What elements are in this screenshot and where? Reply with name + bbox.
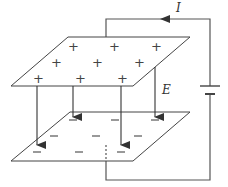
current-label: I [175, 1, 181, 15]
current-arrow-icon [160, 15, 170, 23]
svg-text:+: + [68, 39, 79, 54]
svg-text:+: + [92, 55, 103, 70]
battery [200, 86, 220, 94]
negative-charges [33, 120, 159, 152]
svg-text:+: + [151, 39, 162, 54]
bottom-plate [11, 112, 190, 161]
svg-text:+: + [117, 71, 128, 86]
svg-text:+: + [134, 55, 145, 70]
capacitor-diagram: I + + + + + + + + + E [0, 0, 228, 187]
field-label: E [161, 83, 171, 97]
svg-text:+: + [75, 71, 86, 86]
svg-text:+: + [109, 39, 120, 54]
svg-text:+: + [51, 55, 62, 70]
svg-text:+: + [33, 71, 44, 86]
